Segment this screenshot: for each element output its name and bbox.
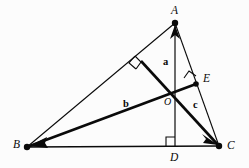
vertex-label-B: B	[13, 139, 20, 151]
vector-label-c: c	[193, 100, 198, 111]
vector-label-a: a	[163, 57, 168, 68]
vertex-label-A: A	[171, 5, 178, 17]
right-angle-markers	[129, 56, 196, 146]
vertex-label-E: E	[203, 73, 210, 85]
figure-canvas	[0, 0, 249, 168]
right-angle-marker-F	[135, 56, 141, 69]
vertex-label-C: C	[227, 140, 235, 152]
segment-AB	[27, 23, 175, 147]
vertex-dot-E	[193, 81, 199, 87]
vector-label-b: b	[123, 99, 129, 110]
vertex-label-D: D	[170, 152, 178, 164]
vertex-dot-B	[24, 144, 30, 150]
vertex-label-O: O	[164, 97, 171, 107]
geometry-figure: A B C D E O a b c	[0, 0, 249, 168]
vertex-dot-C	[216, 143, 222, 149]
segment-BC	[27, 146, 219, 147]
right-angle-marker-D	[166, 137, 175, 146]
vertex-dot-A	[172, 20, 178, 26]
